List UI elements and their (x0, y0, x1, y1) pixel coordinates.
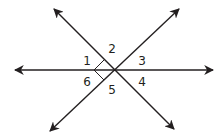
angle-label-1: 1 (83, 54, 91, 68)
angle-label-6: 6 (83, 75, 91, 89)
angle-label-5: 5 (108, 83, 116, 97)
angle-label-4: 4 (138, 75, 146, 89)
intersecting-lines-diagram: 1 2 3 4 5 6 (0, 0, 224, 138)
angle-label-2: 2 (108, 42, 116, 56)
angle-label-3: 3 (138, 54, 146, 68)
